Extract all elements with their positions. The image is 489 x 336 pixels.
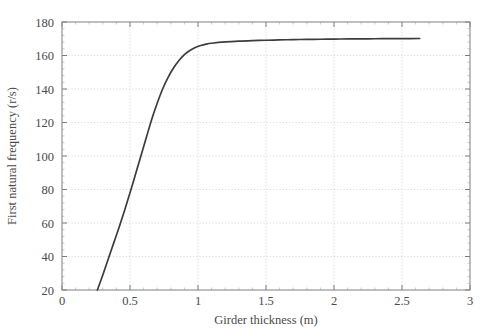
- x-tick-label: 2.5: [394, 294, 410, 308]
- y-tick-label: 20: [42, 284, 55, 298]
- x-tick-label: 0.5: [122, 294, 138, 308]
- chart-svg: 00.511.522.53 20406080100120140160180 Gi…: [0, 0, 489, 336]
- y-tick-label: 120: [35, 116, 54, 130]
- y-tick-label: 140: [35, 83, 54, 97]
- chart-figure: 00.511.522.53 20406080100120140160180 Gi…: [0, 0, 489, 336]
- y-tick-label: 100: [35, 150, 54, 164]
- y-tick-label: 180: [35, 16, 54, 30]
- x-tick-label: 3: [467, 294, 473, 308]
- x-axis-title: Girder thickness (m): [214, 313, 317, 327]
- y-axis-title: First natural frequency (r/s): [5, 87, 19, 225]
- y-tick-label: 160: [35, 49, 54, 63]
- x-tick-label: 0: [59, 294, 65, 308]
- y-tick-label: 80: [42, 183, 55, 197]
- chart-background: [0, 0, 489, 336]
- x-tick-label: 2: [331, 294, 337, 308]
- x-tick-label: 1.5: [258, 294, 274, 308]
- y-tick-label: 40: [42, 250, 55, 264]
- x-tick-label: 1: [195, 294, 201, 308]
- y-tick-label: 60: [42, 217, 55, 231]
